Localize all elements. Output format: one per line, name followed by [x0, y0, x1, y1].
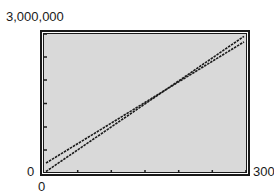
x-axis-min-label: 0	[38, 180, 45, 193]
series-line-2	[46, 42, 244, 163]
series-lines	[46, 36, 244, 171]
y-axis-ticks	[44, 34, 47, 150]
y-axis-max-label: 3,000,000	[6, 10, 64, 23]
line-chart	[44, 34, 246, 173]
x-axis-ticks	[78, 170, 246, 173]
series-line-1	[46, 36, 244, 171]
x-axis-max-label: 300	[253, 165, 274, 178]
y-axis-min-label: 0	[27, 165, 34, 178]
